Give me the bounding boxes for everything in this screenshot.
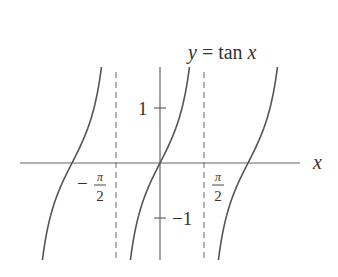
y-tick-label-1: 1 <box>138 98 148 119</box>
pi-numerator: π <box>97 170 104 184</box>
denominator: 2 <box>214 188 222 204</box>
x-tick-label-pi-over-2: π 2 <box>212 170 224 204</box>
minus-sign: − <box>77 173 88 194</box>
function-label: y = tan x <box>186 41 257 64</box>
tan-graph: y = tan x x 1 −1 − π 2 π 2 <box>0 0 338 277</box>
denominator: 2 <box>96 188 104 204</box>
y-tick-label-neg-1: −1 <box>172 208 192 229</box>
x-axis-label: x <box>312 151 322 173</box>
pi-numerator: π <box>215 170 222 184</box>
x-tick-label-neg-pi-over-2: − π 2 <box>77 170 106 204</box>
